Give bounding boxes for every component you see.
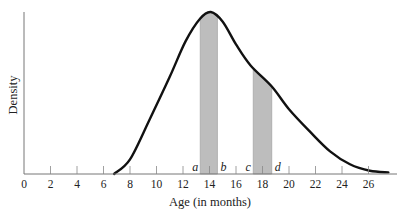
density-chart: 02468101214161820222426 abcd Age (in mon… — [0, 0, 405, 217]
x-tick-label: 16 — [230, 178, 242, 190]
density-curve — [114, 12, 388, 174]
region-label-b: b — [220, 160, 226, 174]
x-tick-label: 10 — [151, 178, 163, 190]
shaded-regions — [200, 12, 272, 174]
y-axis-label: Density — [6, 75, 20, 115]
x-tick-label: 0 — [21, 178, 27, 190]
x-tick-label: 26 — [363, 178, 375, 190]
x-tick-label: 12 — [177, 178, 189, 190]
region-label-a: a — [192, 160, 198, 174]
shaded-region-ab — [200, 12, 217, 174]
x-tick-label: 24 — [336, 178, 348, 190]
x-tick-label: 14 — [204, 178, 216, 190]
x-tick-label: 20 — [283, 178, 295, 190]
x-tick-label: 4 — [74, 178, 80, 190]
region-label-c: c — [246, 160, 252, 174]
x-tick-label: 22 — [310, 178, 322, 190]
x-axis-label: Age (in months) — [169, 195, 251, 209]
x-tick-label: 6 — [101, 178, 107, 190]
x-tick-label: 8 — [127, 178, 133, 190]
x-tick-label: 2 — [48, 178, 54, 190]
x-tick-label: 18 — [257, 178, 269, 190]
region-label-d: d — [275, 160, 282, 174]
